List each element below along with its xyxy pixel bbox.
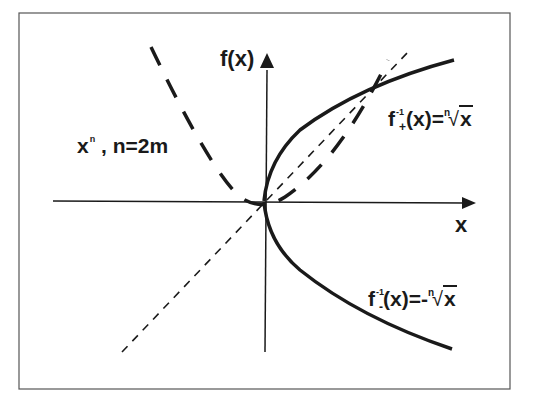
inverse-minus-label: f-1-(x)=-n√x [368,288,457,309]
inverse-minus-neg: - [421,287,428,310]
diagram-canvas [0,0,545,405]
inverse-plus-root-index: n [444,107,450,118]
power-condition: , n=2m [101,134,168,157]
y-axis-label: f(x) [220,48,254,70]
power-exponent: n [90,134,96,144]
power-curve-label: xn , n=2m [77,135,168,156]
inverse-branch-minus [264,202,452,349]
inverse-plus-label: f-1+(x)=n√x [388,108,473,129]
inverse-plus-f: f [388,107,395,130]
x-axis-label: x [455,214,467,236]
inverse-plus-args: (x)= [406,107,444,130]
power-base: x [77,134,89,157]
inverse-minus-sup: -1 [376,287,384,297]
inverse-plus-sup: -1 [396,107,404,117]
y-axis-arrowhead-icon [260,53,274,68]
inverse-plus-sub: + [399,120,406,134]
inverse-plus-radicand: x [459,105,473,130]
inverse-branch-plus [264,60,454,201]
inverse-minus-args: (x)= [383,287,421,310]
inverse-minus-f: f [368,287,375,310]
inverse-minus-root-index: n [428,287,434,298]
x-axis-arrowhead-icon [462,197,476,209]
inverse-function-diagram: f(x) x xn , n=2m f-1+(x)=n√x f-1-(x)=-n√… [0,0,545,405]
inverse-minus-radicand: x [443,285,457,310]
inverse-minus-sub: - [379,300,383,314]
